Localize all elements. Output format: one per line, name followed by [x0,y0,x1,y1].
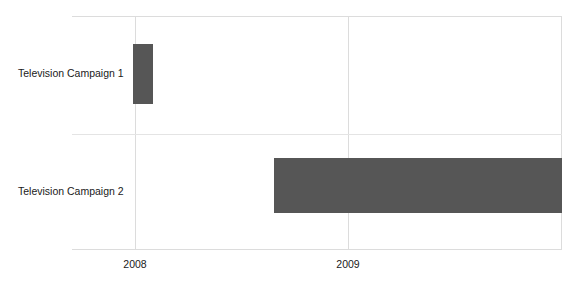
plot-border-top [72,16,562,17]
gantt-bar-television-campaign-2[interactable] [274,158,562,213]
category-label-television-campaign-1: Television Campaign 1 [18,68,124,79]
x-tick-label-2008: 2008 [123,259,146,270]
gridline-horizontal-row-separator [72,134,562,135]
x-tick-label-2009: 2009 [336,259,359,270]
plot-area [72,16,562,250]
plot-border-right [561,16,562,250]
gantt-bar-television-campaign-1[interactable] [133,44,153,104]
gridline-vertical-2009 [348,16,349,250]
category-label-television-campaign-2: Television Campaign 2 [18,186,124,197]
gantt-chart: Television Campaign 1 Television Campaig… [0,0,579,287]
plot-border-bottom [72,249,562,250]
